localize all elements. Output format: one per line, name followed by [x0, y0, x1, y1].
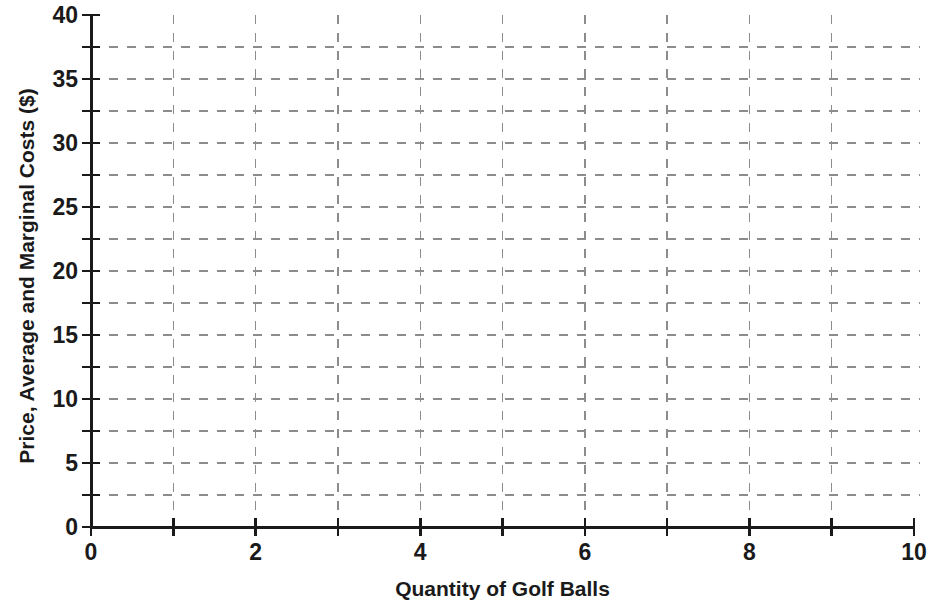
- chart-figure: Price, Average and Marginal Costs ($) Qu…: [0, 0, 927, 607]
- x-tick-label: 0: [61, 541, 121, 564]
- y-tick-label: 40: [32, 4, 78, 27]
- x-tick-label: 8: [719, 541, 779, 564]
- y-tick-label: 15: [32, 324, 78, 347]
- y-tick-label: 25: [32, 196, 78, 219]
- x-tick-label: 2: [226, 541, 286, 564]
- y-tick-label: 35: [32, 68, 78, 91]
- y-tick-label: 5: [32, 452, 78, 475]
- x-tick-label: 6: [555, 541, 615, 564]
- x-tick-label: 10: [884, 541, 927, 564]
- y-tick-label: 30: [32, 132, 78, 155]
- x-tick-label: 4: [390, 541, 450, 564]
- y-tick-label: 0: [32, 516, 78, 539]
- y-tick-label: 10: [32, 388, 78, 411]
- y-tick-label: 20: [32, 260, 78, 283]
- plot-area: [0, 0, 927, 607]
